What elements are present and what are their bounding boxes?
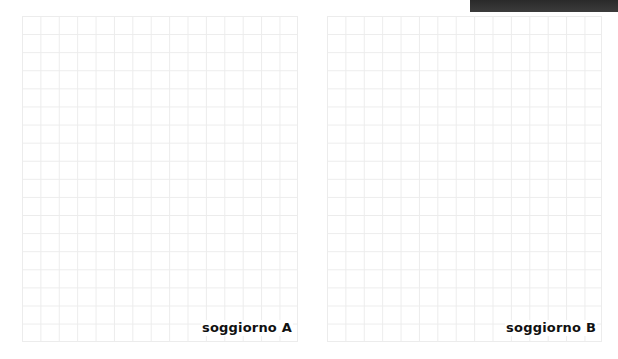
grid-panel-soggiorno-b: soggiorno B [327,16,602,342]
panel-label-a: soggiorno A [201,320,293,336]
top-dark-bar [470,0,618,12]
panel-label-b: soggiorno B [505,320,597,336]
grid-panel-soggiorno-a: soggiorno A [22,16,298,342]
